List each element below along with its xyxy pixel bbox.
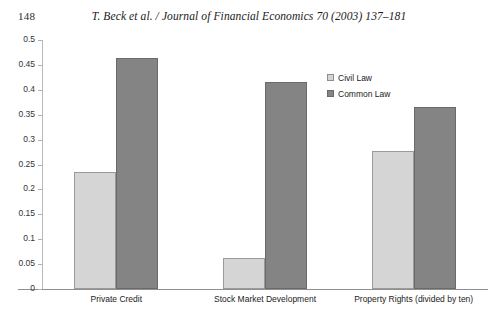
legend-label: Civil Law [338, 73, 372, 83]
y-axis-tick: 0.4 [0, 90, 42, 91]
x-axis-category-label: Property Rights (divided by ten) [324, 294, 498, 304]
y-axis-tick-label: 0.15 [18, 208, 35, 219]
legend-swatch-icon [327, 74, 334, 81]
y-axis-tick-label: 0.2 [23, 183, 35, 194]
y-axis-tick-label: 0.25 [18, 159, 35, 170]
bar-common-law [116, 58, 158, 289]
y-axis-tick-label: 0 [30, 283, 35, 294]
y-axis-tick: 0.15 [0, 214, 42, 215]
y-axis-tick-label: 0.3 [23, 134, 35, 145]
legend-swatch-icon [327, 90, 334, 97]
legend-item: Civil Law [327, 71, 437, 84]
y-axis-tick: 0.05 [0, 264, 42, 265]
y-axis-tick: 0.35 [0, 115, 42, 116]
y-axis-tick-label: 0.1 [23, 233, 35, 244]
running-head: 148 T. Beck et al. / Journal of Financia… [0, 0, 498, 30]
y-axis-tick-mark [38, 289, 42, 290]
y-axis-tick-label: 0.45 [18, 59, 35, 70]
y-axis-tick: 0.3 [0, 140, 42, 141]
legend-item: Common Law [327, 87, 437, 100]
y-axis-tick-label: 0.05 [18, 258, 35, 269]
bar-chart-figure: 00.050.10.150.20.250.30.350.40.450.5 Pri… [0, 30, 498, 315]
bar-common-law [414, 107, 456, 289]
legend-label: Common Law [338, 89, 390, 99]
y-axis-tick-label: 0.35 [18, 109, 35, 120]
chart-legend: Civil LawCommon Law [327, 71, 437, 103]
bar-civil-law [372, 151, 414, 289]
x-axis-line [18, 289, 488, 290]
y-axis-tick: 0 [0, 289, 42, 290]
y-axis-tick-label: 0.4 [23, 84, 35, 95]
y-axis-tick: 0.25 [0, 165, 42, 166]
bar-civil-law [223, 258, 265, 289]
y-axis-tick: 0.1 [0, 239, 42, 240]
y-axis-tick: 0.45 [0, 65, 42, 66]
y-axis-tick-label: 0.5 [23, 34, 35, 45]
y-axis-tick: 0.5 [0, 40, 42, 41]
y-axis-tick: 0.2 [0, 189, 42, 190]
bar-civil-law [74, 172, 116, 289]
bar-common-law [265, 82, 307, 289]
journal-reference: T. Beck et al. / Journal of Financial Ec… [0, 10, 498, 22]
